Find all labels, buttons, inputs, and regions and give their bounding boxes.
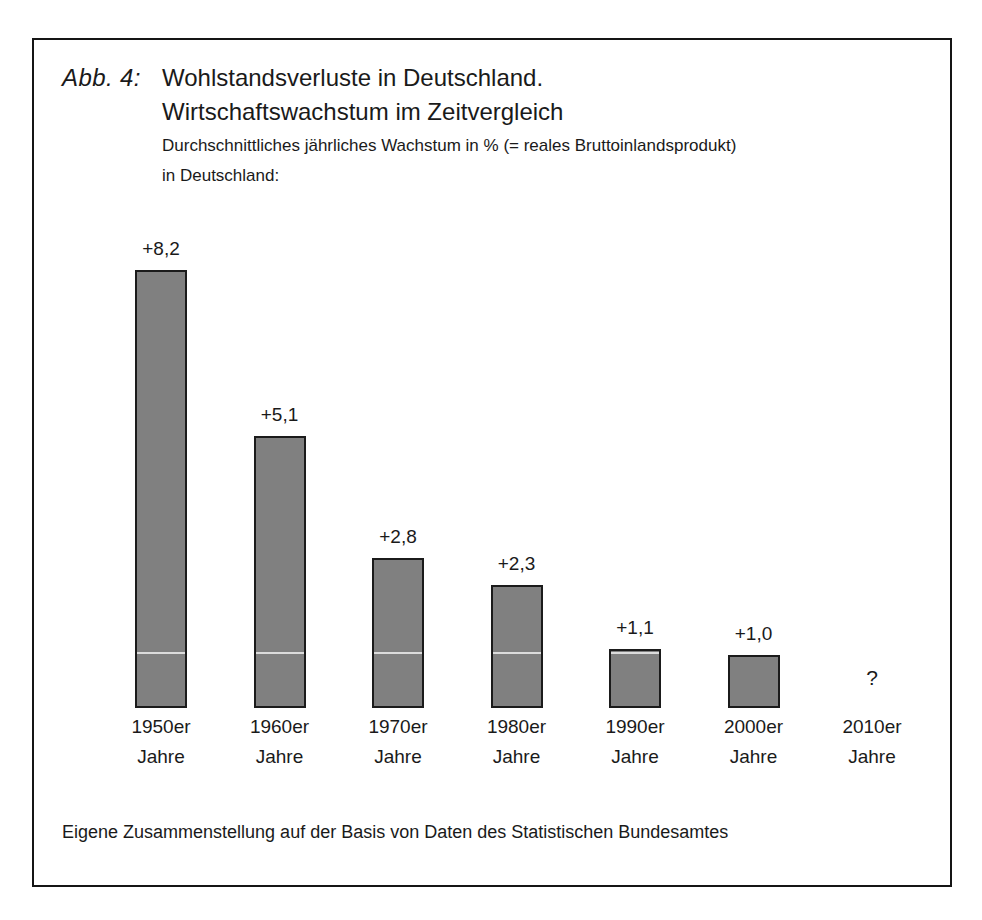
category-label-line-1: 1950er (131, 716, 190, 737)
category-label: 1950erJahre (102, 712, 220, 772)
bar-value-label: +5,1 (221, 404, 339, 426)
bar-chart-plot-area: +8,21950erJahre+5,11960erJahre+2,81970er… (34, 40, 950, 885)
bar-slot: +1,0 (695, 655, 813, 708)
bar-slot: +2,8 (339, 558, 457, 708)
bar[interactable] (491, 585, 543, 708)
category-label-line-2: Jahre (339, 742, 457, 772)
bar-column: +1,02000erJahre (695, 40, 813, 885)
bar-value-label: +8,2 (102, 238, 220, 260)
bar-value-label: +1,1 (576, 617, 694, 639)
category-label: 1990erJahre (576, 712, 694, 772)
scan-artifact-line (493, 652, 541, 654)
scan-artifact-line (611, 652, 659, 654)
bar-value-label: +1,0 (695, 623, 813, 645)
category-label-line-2: Jahre (695, 742, 813, 772)
scan-artifact-line (137, 652, 185, 654)
unknown-value-marker: ? (813, 666, 931, 690)
category-label-line-2: Jahre (221, 742, 339, 772)
category-label: 2010erJahre (813, 712, 931, 772)
category-label-line-2: Jahre (458, 742, 576, 772)
bar-slot: +1,1 (576, 649, 694, 708)
category-label-line-1: 2010er (842, 716, 901, 737)
bar[interactable] (372, 558, 424, 708)
bar-slot: +2,3 (458, 585, 576, 708)
bar[interactable] (728, 655, 780, 708)
category-label-line-1: 1960er (250, 716, 309, 737)
category-label: 1960erJahre (221, 712, 339, 772)
bar-column: +2,81970erJahre (339, 40, 457, 885)
category-label-line-1: 1980er (487, 716, 546, 737)
bar-column: +1,11990erJahre (576, 40, 694, 885)
scan-artifact-line (374, 652, 422, 654)
bar-slot: +5,1 (221, 436, 339, 708)
scanned-page: Abb. 4: Wohlstandsverluste in Deutschlan… (0, 0, 982, 920)
bar-column: +8,21950erJahre (102, 40, 220, 885)
category-label-line-1: 2000er (724, 716, 783, 737)
bar-slot: +8,2 (102, 270, 220, 708)
bar[interactable] (254, 436, 306, 708)
figure-frame: Abb. 4: Wohlstandsverluste in Deutschlan… (32, 38, 952, 887)
category-label: 2000erJahre (695, 712, 813, 772)
category-label: 1980erJahre (458, 712, 576, 772)
category-label-line-1: 1990er (605, 716, 664, 737)
category-label: 1970erJahre (339, 712, 457, 772)
bar[interactable] (609, 649, 661, 708)
bar-column: ?2010erJahre (813, 40, 931, 885)
bar[interactable] (135, 270, 187, 708)
category-label-line-2: Jahre (576, 742, 694, 772)
scan-artifact-line (256, 652, 304, 654)
bar-value-label: +2,3 (458, 553, 576, 575)
category-label-line-1: 1970er (368, 716, 427, 737)
bar-column: +2,31980erJahre (458, 40, 576, 885)
category-label-line-2: Jahre (102, 742, 220, 772)
bar-column: +5,11960erJahre (221, 40, 339, 885)
bar-value-label: +2,8 (339, 526, 457, 548)
category-label-line-2: Jahre (813, 742, 931, 772)
source-note: Eigene Zusammenstellung auf der Basis vo… (62, 822, 728, 843)
